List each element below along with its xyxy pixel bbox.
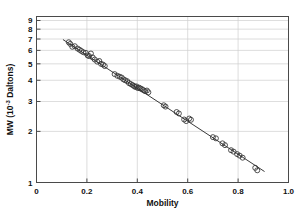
y-tick-label: 1 — [28, 179, 33, 188]
x-tick-label: 0.2 — [81, 187, 93, 196]
x-tick-label: 0.6 — [182, 187, 194, 196]
plot-grid — [37, 17, 289, 183]
x-tick-label: 0.8 — [233, 187, 245, 196]
plot-frame — [37, 17, 289, 183]
x-axis-title: Mobility — [146, 198, 178, 208]
data-point — [210, 135, 215, 140]
y-tick-label: 4 — [28, 76, 33, 85]
y-tick-label: 5 — [28, 60, 33, 69]
y-axis-title-text: MW (10-3 Daltons) — [5, 64, 15, 136]
y-tick-label: 6 — [28, 46, 33, 55]
y-tick-label: 3 — [28, 97, 33, 106]
y-tick-label: 7 — [28, 35, 33, 44]
x-tick-label: 1.0 — [283, 187, 295, 196]
x-tick-label: 0.4 — [132, 187, 144, 196]
x-tick-label: 0 — [34, 187, 39, 196]
fit-line — [63, 40, 265, 172]
chart-figure: 12345678900.20.40.60.81.0 Mobility MW (1… — [0, 0, 303, 210]
x-axis-title-text: Mobility — [146, 198, 178, 208]
regression-line — [63, 40, 265, 172]
y-tick-label: 9 — [28, 16, 33, 25]
y-axis-title: MW (10-3 Daltons) — [5, 64, 15, 136]
y-tick-label: 2 — [28, 127, 33, 136]
data-points — [66, 40, 259, 173]
scatter-plot: 12345678900.20.40.60.81.0 Mobility MW (1… — [0, 0, 303, 210]
y-tick-label: 8 — [28, 25, 33, 34]
plot-border — [37, 17, 289, 183]
